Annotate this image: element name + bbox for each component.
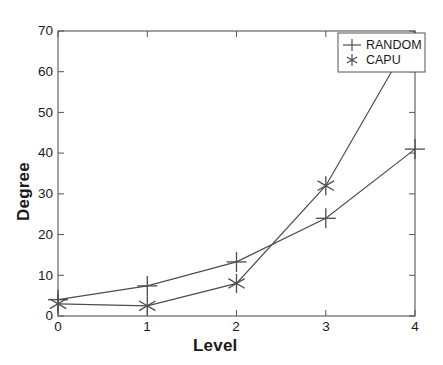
chart-figure: 70 60 50 40 30 20 10 0 0 1 2 3 4 Degree …: [0, 0, 443, 365]
series-capu: [50, 31, 415, 315]
x-tick-label-3: 3: [316, 319, 336, 334]
x-tick-label-0: 0: [48, 319, 68, 334]
legend-label-capu: CAPU: [366, 53, 401, 67]
axes-box: [58, 31, 415, 316]
x-tick-label-1: 1: [137, 319, 157, 334]
y-tick-label-70: 70: [27, 23, 53, 38]
plot-frame: [58, 31, 415, 316]
x-tick-label-2: 2: [226, 319, 246, 334]
x-tick-label-4: 4: [405, 319, 425, 334]
y-tick-label-50: 50: [27, 105, 53, 120]
y-tick-label-40: 40: [27, 145, 53, 160]
y-axis-title: Degree: [14, 162, 34, 221]
legend-label-random: RANDOM: [366, 38, 422, 52]
x-axis-title: Level: [193, 336, 237, 356]
y-axis-ticks: [58, 31, 415, 316]
y-tick-label-60: 60: [27, 64, 53, 79]
x-axis-ticks: [58, 31, 415, 316]
y-tick-label-10: 10: [27, 268, 53, 283]
y-tick-label-20: 20: [27, 227, 53, 242]
